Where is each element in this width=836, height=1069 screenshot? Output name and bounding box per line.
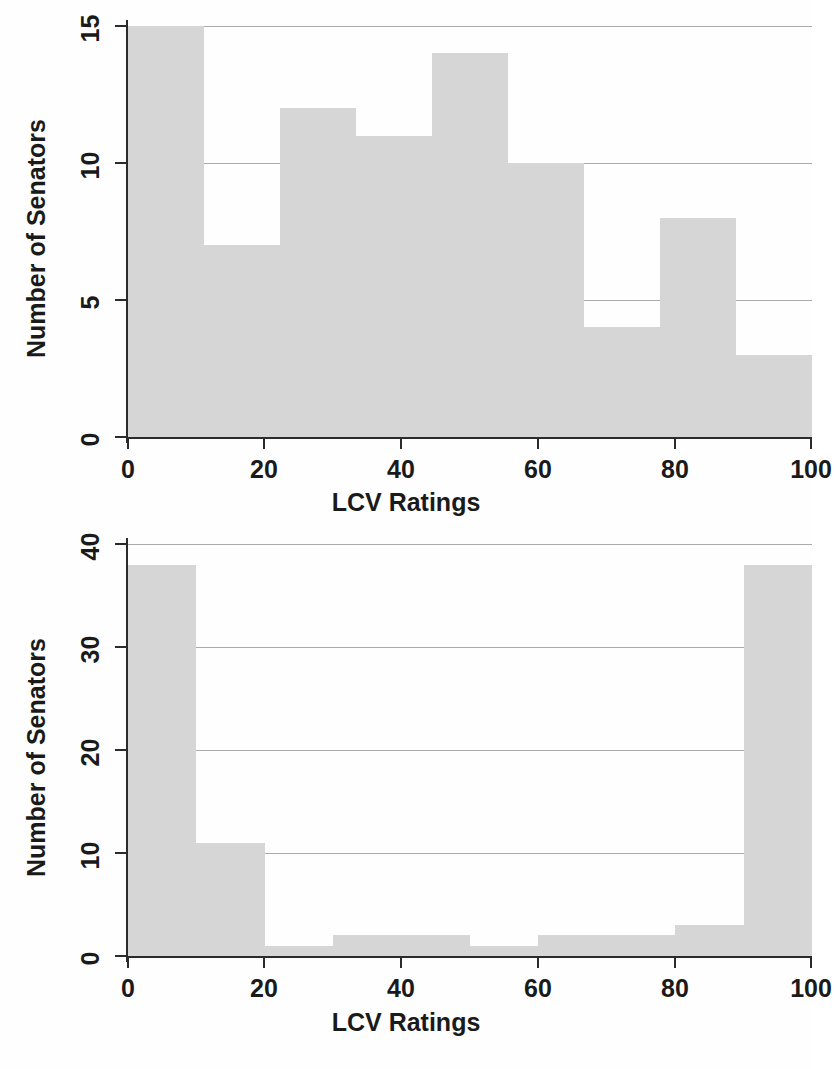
x-tick-top-20 <box>263 438 265 449</box>
x-ticklabel-bottom-0: 0 <box>88 974 168 1003</box>
y-ticklabel-bottom-10: 10 <box>76 828 105 884</box>
x-axis-title-bottom: LCV Ratings <box>0 1008 812 1037</box>
bars-layer-top <box>128 26 812 437</box>
y-ticklabel-bottom-20: 20 <box>76 725 105 781</box>
chart-bottom-histogram: 0 10 20 30 40 0 20 40 60 80 100 LCV Rati… <box>0 512 812 1069</box>
y-ticklabel-top-0: 0 <box>76 420 105 460</box>
x-ticklabel-bottom-80: 80 <box>635 974 715 1003</box>
histogram-bar <box>432 53 509 437</box>
histogram-bar <box>660 218 736 437</box>
x-ticklabel-bottom-60: 60 <box>498 974 578 1003</box>
histogram-bar <box>470 946 538 956</box>
x-tick-top-100 <box>810 438 812 449</box>
y-tick-bottom-40 <box>115 543 126 545</box>
histogram-bar <box>333 935 401 956</box>
histogram-bar <box>128 26 204 437</box>
histogram-bar <box>196 843 264 956</box>
histogram-bar <box>128 565 196 956</box>
histogram-bar <box>538 935 606 956</box>
chart-top-histogram: 0 5 10 15 0 20 40 60 80 100 LCV Ratings … <box>0 0 812 512</box>
x-tick-bottom-20 <box>263 957 265 968</box>
y-ticklabel-bottom-40: 40 <box>76 519 105 575</box>
y-tick-bottom-0 <box>115 955 126 957</box>
x-axis-line-top <box>126 437 812 439</box>
plot-wrapper-bottom: 0 10 20 30 40 0 20 40 60 80 100 LCV Rati… <box>0 512 812 1069</box>
x-ticklabel-top-40: 40 <box>361 455 441 484</box>
x-ticklabel-bottom-100: 100 <box>771 974 836 1003</box>
y-axis-line-bottom <box>126 538 128 962</box>
y-ticklabel-bottom-0: 0 <box>76 939 105 979</box>
plot-wrapper-top: 0 5 10 15 0 20 40 60 80 100 LCV Ratings … <box>0 0 812 512</box>
x-tick-bottom-60 <box>537 957 539 968</box>
y-axis-line-top <box>126 20 128 443</box>
y-axis-title-top: Number of Senators <box>22 119 51 358</box>
x-tick-top-40 <box>400 438 402 449</box>
histogram-bar <box>675 925 743 956</box>
histogram-bar <box>402 935 470 956</box>
x-tick-bottom-100 <box>810 957 812 968</box>
histogram-bar <box>736 355 812 437</box>
x-ticklabel-top-0: 0 <box>88 455 168 484</box>
x-tick-bottom-40 <box>400 957 402 968</box>
histogram-bar <box>607 935 675 956</box>
x-axis-line-bottom <box>126 956 812 958</box>
y-tick-top-5 <box>115 299 126 301</box>
x-ticklabel-top-20: 20 <box>224 455 304 484</box>
y-ticklabel-top-5: 5 <box>76 283 105 323</box>
y-tick-bottom-20 <box>115 749 126 751</box>
x-tick-top-0 <box>127 438 129 449</box>
y-tick-top-10 <box>115 162 126 164</box>
histogram-bar <box>280 108 356 437</box>
histogram-bar <box>204 245 280 437</box>
y-ticklabel-top-15: 15 <box>76 9 105 49</box>
y-ticklabel-top-10: 10 <box>76 146 105 186</box>
histogram-bar <box>265 946 333 956</box>
x-tick-top-80 <box>674 438 676 449</box>
x-tick-bottom-0 <box>127 957 129 968</box>
y-tick-bottom-10 <box>115 852 126 854</box>
y-tick-bottom-30 <box>115 646 126 648</box>
y-ticklabel-bottom-30: 30 <box>76 622 105 678</box>
x-ticklabel-bottom-40: 40 <box>361 974 441 1003</box>
y-tick-top-15 <box>115 25 126 27</box>
x-tick-bottom-80 <box>674 957 676 968</box>
histogram-bar <box>584 327 660 437</box>
x-ticklabel-top-80: 80 <box>635 455 715 484</box>
bars-layer-bottom <box>128 544 812 956</box>
x-ticklabel-top-60: 60 <box>498 455 578 484</box>
x-ticklabel-bottom-20: 20 <box>224 974 304 1003</box>
y-axis-title-bottom: Number of Senators <box>22 638 51 877</box>
histogram-bar <box>508 163 584 437</box>
x-tick-top-60 <box>537 438 539 449</box>
histogram-bar <box>356 136 432 437</box>
x-ticklabel-top-100: 100 <box>771 455 836 484</box>
histogram-bar <box>744 565 812 956</box>
y-tick-top-0 <box>115 436 126 438</box>
